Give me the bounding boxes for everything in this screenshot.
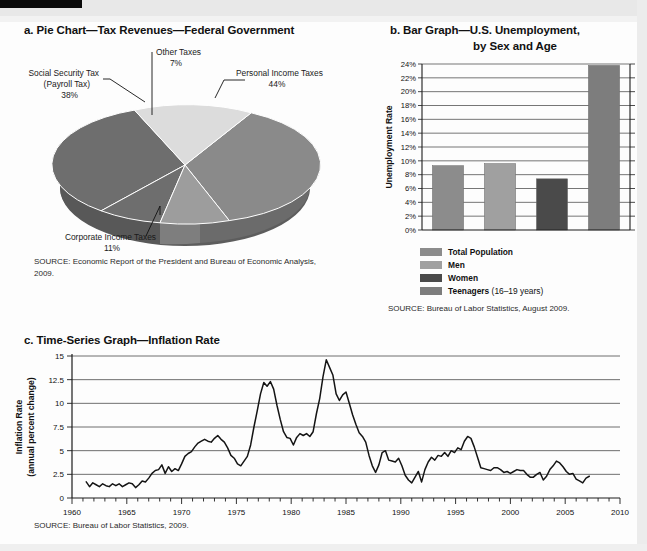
pie-leader-personal-income [215,80,245,98]
timeseries-x-tick-label: 1965 [118,508,136,517]
timeseries-chart-panel: c. Time-Series Graph—Inflation Rate Infl… [0,330,647,545]
timeseries-x-tick-label: 2000 [502,508,520,517]
bar-chart-legend-swatch [420,287,442,295]
bar-chart-y-tick-label: 20% [401,87,416,96]
bar-chart-legend: Total PopulationMenWomenTeenagers (16–19… [420,246,543,298]
bar-chart-bar [484,164,515,230]
pie-chart-figure: Social Security Tax (Payroll Tax) 38% Ot… [0,40,370,255]
timeseries-x-tick-label: 2010 [611,508,629,517]
bar-chart-legend-swatch [420,248,442,256]
pie-label-personal-income-value: 44% [269,79,286,89]
timeseries-x-tick-label: 1970 [173,508,191,517]
pie-leader-social-security [103,79,145,102]
page-canvas: a. Pie Chart—Tax Revenues—Federal Govern… [0,0,647,551]
bar-chart-y-tick-label: 0% [405,226,416,235]
bar-chart-caption-line2: by Sex and Age [390,40,640,52]
bar-chart-y-tick-label: 18% [401,101,416,110]
bar-chart-y-tick-label: 8% [405,170,416,179]
bar-chart-figure: Unemployment Rate0%2%4%6%8%10%12%14%16%1… [380,54,647,249]
bar-chart-bar [588,65,619,230]
timeseries-x-tick-label: 1985 [337,508,355,517]
pie-label-social-security-value: 38% [61,90,78,100]
bar-chart-legend-swatch [420,261,442,269]
pie-label-social-security-line1: Social Security Tax [28,68,99,78]
timeseries-y-tick-label: 0 [60,494,65,503]
bar-chart-panel: b. Bar Graph—U.S. Unemployment, by Sex a… [380,18,647,328]
pie-label-corporate-income: Corporate Income Taxes [65,232,156,242]
bar-chart-y-tick-label: 2% [405,212,416,221]
bar-chart-y-tick-label: 14% [401,129,416,138]
timeseries-x-tick-label: 1980 [282,508,300,517]
timeseries-chart-figure: Inflation Rate(annual percent change)02.… [0,348,647,523]
pie-chart-caption: a. Pie Chart—Tax Revenues—Federal Govern… [24,24,294,36]
bar-chart-bar [432,166,463,230]
bar-chart-y-tick-label: 10% [401,157,416,166]
timeseries-x-tick-label: 2005 [556,508,574,517]
bar-chart-legend-sublabel: (16–19 years) [489,286,543,296]
timeseries-y-tick-label: 10 [55,399,64,408]
pie-label-other-taxes-value: 7% [170,58,183,68]
timeseries-y-tick-label: 5 [60,447,65,456]
bar-chart-y-tick-label: 12% [401,143,416,152]
bar-chart-y-tick-label: 6% [405,184,416,193]
bar-chart-legend-label: Men [448,260,465,270]
bar-chart-legend-item: Teenagers (16–19 years) [420,285,543,297]
bar-chart-source: SOURCE: Bureau of Labor Statistics, Augu… [388,303,643,315]
timeseries-y-axis-title-line1: Inflation Rate [14,400,24,455]
pie-label-corporate-income-value: 11% [104,243,121,253]
bar-chart-y-tick-label: 16% [401,115,416,124]
bar-chart-legend-item: Women [420,272,543,284]
bar-chart-y-tick-label: 22% [401,74,416,83]
bar-chart-caption-line1: b. Bar Graph—U.S. Unemployment, [390,24,580,36]
pie-slices [52,105,321,224]
bar-chart-legend-label: Women [448,273,478,283]
pie-label-personal-income: Personal Income Taxes [236,68,323,78]
bar-chart-legend-item: Men [420,259,543,271]
bar-chart-legend-label: Total Population [448,247,513,257]
timeseries-y-tick-label: 12.5 [48,376,64,385]
bar-chart-y-axis-title: Unemployment Rate [384,105,394,188]
timeseries-x-tick-label: 1960 [63,508,81,517]
bar-chart-y-tick-label: 24% [401,60,416,69]
timeseries-y-axis-title-line2: (annual percent change) [26,377,36,476]
timeseries-x-tick-label: 1990 [392,508,410,517]
timeseries-x-tick-label: 1975 [228,508,246,517]
pie-chart-panel: a. Pie Chart—Tax Revenues—Federal Govern… [0,18,380,293]
timeseries-y-tick-label: 2.5 [53,470,65,479]
scan-edge-black-mark [0,0,82,8]
timeseries-chart-source: SOURCE: Bureau of Labor Statistics, 2009… [34,520,189,532]
scan-edge-bottom [0,544,647,551]
bar-chart-bar [536,179,567,230]
bar-chart-legend-item: Total Population [420,246,543,258]
bar-chart-legend-swatch [420,274,442,282]
timeseries-y-tick-label: 15 [55,352,64,361]
scan-edge-top [0,0,647,16]
pie-label-other-taxes: Other Taxes [156,47,201,57]
timeseries-y-axis-title: Inflation Rate(annual percent change) [14,377,36,476]
timeseries-y-tick-label: 7.5 [53,423,65,432]
timeseries-x-tick-label: 1995 [447,508,465,517]
bar-chart-legend-label: Teenagers (16–19 years) [448,286,543,296]
bar-chart-y-tick-label: 4% [405,198,416,207]
timeseries-data-line [86,360,589,488]
pie-chart-source: SOURCE: Economic Report of the President… [34,256,324,279]
pie-label-social-security-line2: (Payroll Tax) [44,79,91,89]
timeseries-chart-caption: c. Time-Series Graph—Inflation Rate [24,334,220,346]
